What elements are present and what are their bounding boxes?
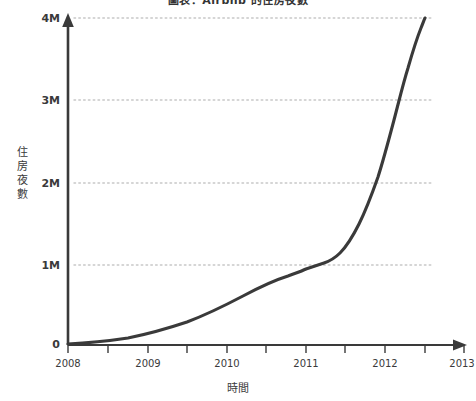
x-axis bbox=[68, 339, 467, 350]
x-tick-marks bbox=[68, 345, 464, 353]
data-series-line bbox=[68, 18, 425, 344]
gridlines bbox=[74, 18, 434, 265]
y-axis bbox=[62, 13, 74, 345]
line-chart: 圖表：Airbnb 的住房夜數 4M 3M 2M 1M 0 住房夜數 2008 … bbox=[0, 0, 476, 401]
chart-canvas bbox=[0, 0, 476, 401]
